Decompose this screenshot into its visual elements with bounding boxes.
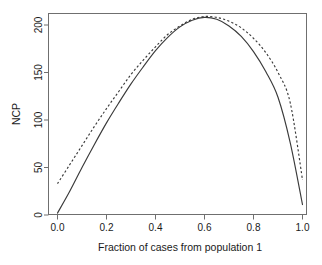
x-tick-label-2: 0.4 [149, 222, 163, 233]
x-tick-label-0: 0.0 [51, 222, 65, 233]
x-tick-label-1: 0.2 [100, 222, 114, 233]
x-tick-label-3: 0.6 [198, 222, 212, 233]
x-tick-label-5: 1.0 [296, 222, 310, 233]
y-tick-label-100: 100 [33, 111, 44, 128]
x-tick-label-4: 0.8 [247, 222, 261, 233]
y-tick-label-150: 150 [33, 64, 44, 81]
ncp-line-chart: 0 50 100 150 200 NCP 0.0 0.2 0.4 0.6 0.8… [0, 0, 322, 265]
y-tick-label-50: 50 [33, 162, 44, 174]
y-axis-title: NCP [10, 103, 22, 125]
chart-figure: 0 50 100 150 200 NCP 0.0 0.2 0.4 0.6 0.8… [0, 0, 322, 265]
x-axis-title: Fraction of cases from population 1 [98, 241, 262, 253]
y-tick-label-0: 0 [33, 212, 44, 218]
y-tick-label-200: 200 [33, 16, 44, 33]
